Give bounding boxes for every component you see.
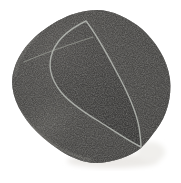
product-photo <box>0 0 181 183</box>
abrasive-drum-image <box>0 0 181 183</box>
